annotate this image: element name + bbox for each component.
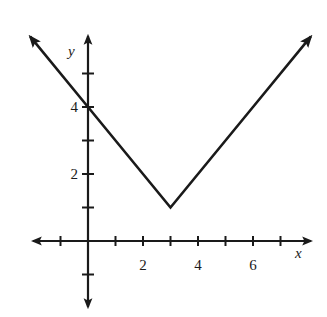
y-tick-label: 2: [71, 166, 79, 182]
x-axis-label: x: [294, 245, 302, 261]
x-tick-label: 6: [249, 257, 257, 273]
y-tick-label: 4: [71, 99, 79, 115]
y-ticks: 24: [71, 74, 95, 275]
x-tick-label: 2: [139, 257, 147, 273]
axes: 246 24: [33, 36, 311, 307]
graph-figure: 246 24 x y: [0, 0, 327, 317]
y-axis-label: y: [66, 43, 75, 59]
x-tick-label: 4: [194, 257, 202, 273]
